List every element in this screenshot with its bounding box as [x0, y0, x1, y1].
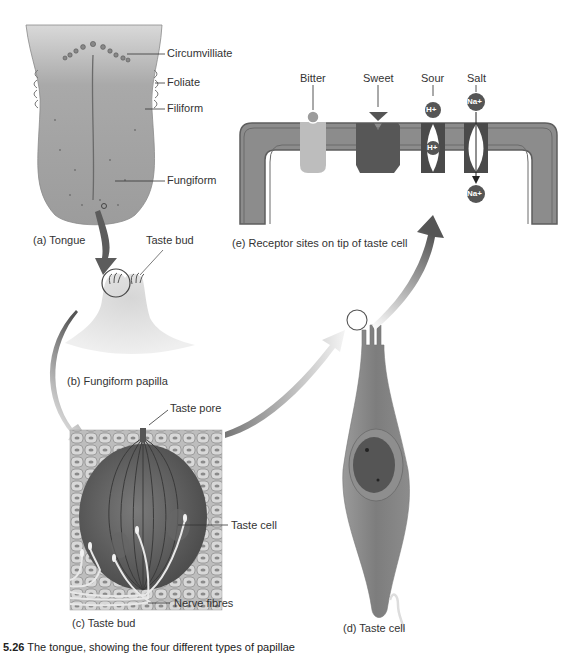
callout-nerve-fibres: Nerve fibres	[174, 598, 233, 609]
ion-label-na-in: Na+	[467, 190, 482, 198]
callout-taste-pore: Taste pore	[170, 403, 221, 414]
panel-label-a: (a) Tongue	[33, 235, 85, 246]
tongue-illustration	[26, 25, 165, 225]
taste-bud-illustration	[70, 410, 228, 610]
callout-circumvilliate: Circumvilliate	[167, 48, 232, 59]
caption-number: 5.26	[3, 641, 24, 653]
receptor-label-sweet: Sweet	[363, 73, 394, 84]
receptor-label-salt: Salt	[467, 73, 486, 84]
figure-caption: 5.26 The tongue, showing the four differ…	[3, 641, 295, 653]
receptor-label-sour: Sour	[421, 73, 444, 84]
ion-label-h-in: H+	[427, 144, 437, 152]
panel-label-e: (e) Receptor sites on tip of taste cell	[232, 238, 407, 249]
callout-taste-cell: Taste cell	[231, 520, 277, 531]
callout-filiform: Filiform	[167, 103, 203, 114]
ion-label-h-out: H+	[426, 106, 436, 114]
papilla-illustration	[65, 250, 195, 354]
taste-cell-illustration	[343, 310, 410, 630]
arrow-bud-to-cell	[225, 330, 345, 438]
callout-fungiform: Fungiform	[167, 175, 217, 186]
ion-label-na-out: Na+	[467, 98, 482, 106]
receptor-label-bitter: Bitter	[300, 73, 326, 84]
receptor-membrane-illustration	[240, 85, 557, 224]
panel-label-d: (d) Taste cell	[343, 623, 405, 634]
callout-taste-bud: Taste bud	[146, 235, 194, 246]
panel-label-b: (b) Fungiform papilla	[67, 376, 168, 387]
arrow-cell-to-receptors	[372, 215, 444, 330]
panel-label-c: (c) Taste bud	[72, 618, 135, 629]
caption-text: The tongue, showing the four different t…	[27, 641, 295, 653]
callout-foliate: Foliate	[167, 77, 200, 88]
illustration-layer	[0, 0, 571, 656]
